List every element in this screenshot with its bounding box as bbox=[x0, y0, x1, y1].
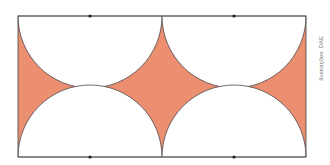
center-point bbox=[88, 14, 91, 17]
credit-text: Ilustrações: DAE bbox=[318, 36, 324, 81]
geometry-figure bbox=[0, 0, 330, 165]
center-point bbox=[232, 155, 235, 158]
center-point bbox=[232, 14, 235, 17]
center-point bbox=[88, 155, 91, 158]
